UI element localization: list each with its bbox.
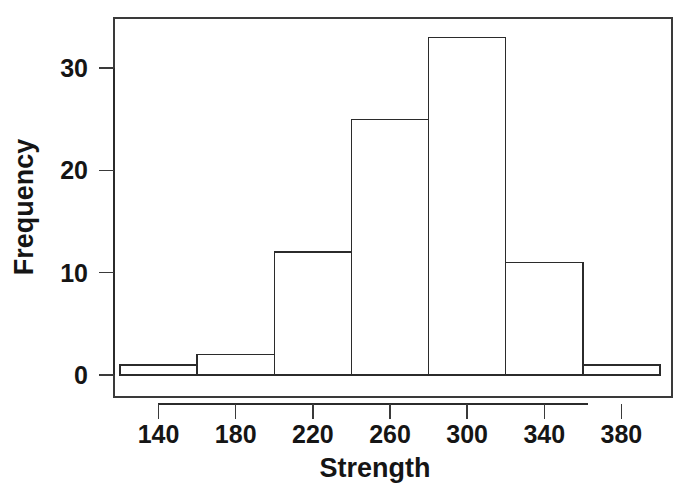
plot-canvas: 0102030 140180220260300340380 Frequency … (0, 0, 693, 498)
histogram-bar (506, 262, 583, 375)
x-axis-title: Strength (320, 453, 431, 483)
histogram-bar (120, 365, 197, 375)
histogram-bar (197, 355, 274, 375)
histogram-figure: 0102030 140180220260300340380 Frequency … (0, 0, 693, 498)
y-axis-title: Frequency (9, 139, 39, 276)
histogram-bar (429, 37, 506, 375)
x-tick-label: 340 (523, 420, 565, 448)
x-tick-label: 140 (138, 420, 180, 448)
histogram-bar (274, 252, 351, 375)
y-tick-label: 20 (60, 156, 88, 184)
y-tick-label: 0 (74, 361, 88, 389)
y-tick-label: 30 (60, 54, 88, 82)
histogram-bar (351, 119, 428, 375)
x-tick-label: 180 (215, 420, 257, 448)
x-tick-label: 300 (446, 420, 488, 448)
x-tick-label: 220 (292, 420, 334, 448)
y-tick-label: 10 (60, 259, 88, 287)
x-axis: 140180220260300340380 (138, 404, 643, 448)
bars-group (120, 37, 660, 375)
y-axis: 0102030 (60, 54, 114, 389)
x-tick-label: 380 (601, 420, 643, 448)
histogram-bar (583, 365, 660, 375)
x-tick-label: 260 (369, 420, 411, 448)
